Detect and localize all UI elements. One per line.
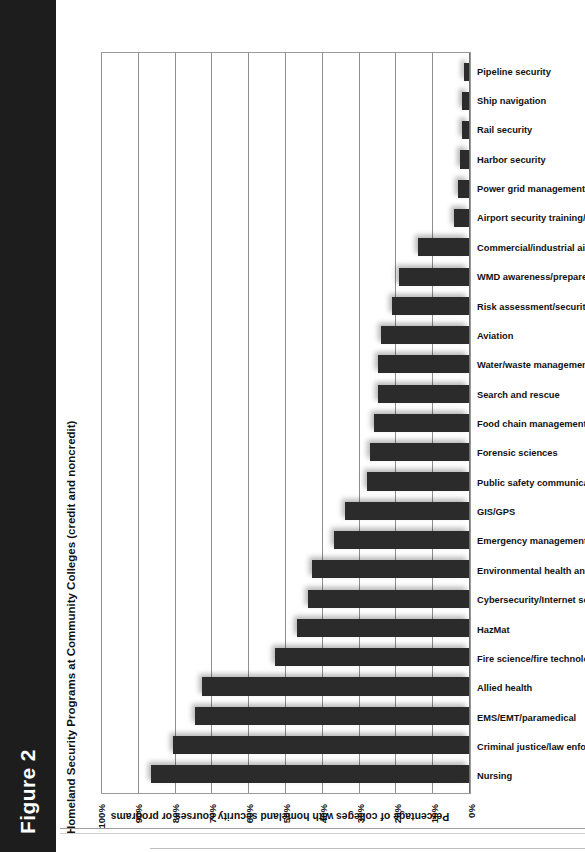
category-label-slot: Airport security training/planning xyxy=(473,203,585,232)
category-label-slot: Environmental health and safety xyxy=(473,555,585,584)
bar[interactable] xyxy=(462,92,469,110)
category-label-slot: Harbor security xyxy=(473,144,585,173)
category-label: Allied health xyxy=(477,683,532,693)
value-axis-baseline xyxy=(469,53,470,793)
category-label: Environmental health and safety xyxy=(477,566,585,576)
bar-slot xyxy=(103,730,469,759)
bar[interactable] xyxy=(458,180,469,198)
category-label: Risk assessment/security planning xyxy=(477,302,585,312)
bar-slot xyxy=(103,233,469,262)
category-label-slot: Risk assessment/security planning xyxy=(473,291,585,320)
category-label-slot: Public safety communications xyxy=(473,467,585,496)
bar[interactable] xyxy=(370,443,469,461)
bar-slot xyxy=(103,760,469,789)
bar[interactable] xyxy=(378,355,470,373)
bar-slot xyxy=(103,408,469,437)
category-label: Cybersecurity/Internet security xyxy=(477,595,585,605)
category-axis-labels: NursingCriminal justice/law enforcementE… xyxy=(473,53,585,793)
bar[interactable] xyxy=(202,677,469,695)
value-axis-title: Percentage of colleges with homeland sec… xyxy=(95,808,465,826)
bar-slot xyxy=(103,467,469,496)
bar-slot xyxy=(103,291,469,320)
category-label: Water/waste management xyxy=(477,360,585,370)
figure-banner: Figure 2 xyxy=(0,0,56,852)
bar[interactable] xyxy=(374,414,469,432)
bar-slot xyxy=(103,174,469,203)
category-label-slot: WMD awareness/preparedness xyxy=(473,262,585,291)
bar-slot xyxy=(103,672,469,701)
figure-number-label: Figure 2 xyxy=(0,0,56,852)
bar-slot xyxy=(103,613,469,642)
plot-area xyxy=(101,52,471,794)
bar[interactable] xyxy=(462,121,469,139)
gridline xyxy=(101,53,102,793)
bar[interactable] xyxy=(275,648,469,666)
category-label-slot: Forensic sciences xyxy=(473,438,585,467)
bar-slot xyxy=(103,584,469,613)
category-label-slot: Nursing xyxy=(473,761,585,790)
bar-slot xyxy=(103,321,469,350)
category-label-slot: Ship navigation xyxy=(473,85,585,114)
category-label: Harbor security xyxy=(477,155,546,165)
category-label-slot: Search and rescue xyxy=(473,379,585,408)
bar-slot xyxy=(103,350,469,379)
bar-slot xyxy=(103,57,469,86)
bar-slot xyxy=(103,525,469,554)
bar-slot xyxy=(103,262,469,291)
figure-caption: Homeland Security Programs at Community … xyxy=(58,0,84,852)
chart-stage: 0%10%20%30%40%50%60%70%80%90%100% Percen… xyxy=(85,0,585,852)
bar[interactable] xyxy=(392,297,469,315)
category-label-slot: HazMat xyxy=(473,614,585,643)
bar[interactable] xyxy=(195,707,470,725)
bar[interactable] xyxy=(418,238,469,256)
bar[interactable] xyxy=(454,209,469,227)
category-label: Fire science/fire technology xyxy=(477,654,585,664)
bar[interactable] xyxy=(312,560,469,578)
bar[interactable] xyxy=(345,502,469,520)
bar[interactable] xyxy=(334,531,469,549)
bar[interactable] xyxy=(173,736,469,754)
bar[interactable] xyxy=(378,385,470,403)
bar-slot xyxy=(103,203,469,232)
bar-series xyxy=(103,54,469,792)
category-label-slot: Power grid management xyxy=(473,173,585,202)
category-label-slot: GIS/GPS xyxy=(473,496,585,525)
category-label-slot: Rail security xyxy=(473,115,585,144)
bar[interactable] xyxy=(151,765,469,783)
bar-slot xyxy=(103,379,469,408)
bar-slot xyxy=(103,145,469,174)
category-label-slot: EMS/EMT/paramedical xyxy=(473,702,585,731)
bar[interactable] xyxy=(399,268,469,286)
bar-slot xyxy=(103,438,469,467)
page-hairline-middle xyxy=(60,833,585,834)
category-label: Airport security training/planning xyxy=(477,214,585,224)
category-label: Commercial/industrial air quality contro… xyxy=(477,243,585,253)
category-label-slot: Pipeline security xyxy=(473,56,585,85)
category-label: Nursing xyxy=(477,771,512,781)
category-label: WMD awareness/preparedness xyxy=(477,272,585,282)
bar[interactable] xyxy=(308,590,469,608)
bar[interactable] xyxy=(381,326,469,344)
figure-page: Figure 2 Homeland Security Programs at C… xyxy=(0,0,585,852)
category-label: Emergency management/preparedness xyxy=(477,536,585,546)
value-axis-tick: 0% xyxy=(466,804,477,818)
bar-slot xyxy=(103,555,469,584)
category-label: HazMat xyxy=(477,625,510,635)
bar[interactable] xyxy=(297,619,469,637)
page-hairline-top xyxy=(60,828,585,829)
bar-slot xyxy=(103,643,469,672)
category-label-slot: Fire science/fire technology xyxy=(473,643,585,672)
bar[interactable] xyxy=(460,150,469,168)
category-label-slot: Commercial/industrial air quality contro… xyxy=(473,232,585,261)
category-label: Power grid management xyxy=(477,184,585,194)
bar-chart: 0%10%20%30%40%50%60%70%80%90%100% Percen… xyxy=(85,0,585,852)
bar-slot xyxy=(103,701,469,730)
category-label: Food chain management/food safety/agri-t… xyxy=(477,419,585,429)
bar-slot xyxy=(103,86,469,115)
category-label: Aviation xyxy=(477,331,513,341)
category-label: Forensic sciences xyxy=(477,448,558,458)
category-label: GIS/GPS xyxy=(477,507,515,517)
bar[interactable] xyxy=(367,472,469,490)
category-label: Ship navigation xyxy=(477,96,546,106)
category-label: Search and rescue xyxy=(477,390,560,400)
